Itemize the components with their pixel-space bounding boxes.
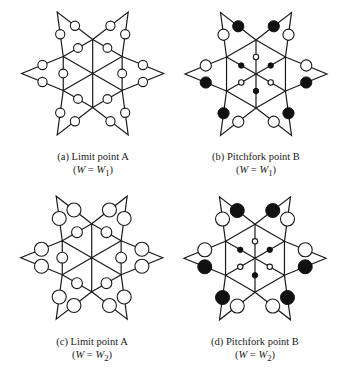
node-circle-open bbox=[34, 242, 48, 256]
node-circle-filled bbox=[280, 291, 294, 305]
caption-a: (a) Limit point A (W = W1) bbox=[3, 150, 183, 180]
inner-node-circle-open bbox=[116, 252, 127, 263]
inner-node-circle-open bbox=[103, 44, 112, 53]
inner-node-circle-filled bbox=[268, 63, 273, 68]
node-circle-filled bbox=[200, 77, 211, 88]
node-circle-open bbox=[200, 60, 211, 71]
inner-node-circle-open bbox=[59, 69, 68, 78]
spoke bbox=[63, 74, 92, 91]
node-circle-open bbox=[38, 77, 47, 86]
node-circle-open bbox=[298, 243, 312, 257]
node-circle-filled bbox=[283, 108, 294, 119]
node-circle-open bbox=[70, 117, 79, 126]
caption-a-label: (a) Limit point A bbox=[57, 151, 128, 162]
node-circle-open bbox=[67, 298, 81, 312]
node-circle-open bbox=[283, 29, 294, 40]
inner-node-circle-filled bbox=[239, 63, 244, 68]
node-circle-filled bbox=[230, 204, 244, 218]
inner-node-circle-open bbox=[101, 278, 112, 289]
inner-node-circle-open bbox=[268, 80, 273, 85]
truss-members-b bbox=[185, 13, 327, 136]
spoke bbox=[93, 57, 122, 74]
node-circle-open bbox=[138, 77, 147, 86]
node-circle-filled bbox=[266, 204, 280, 218]
inner-node-circle-open bbox=[238, 264, 243, 269]
node-circle-open bbox=[135, 259, 149, 273]
node-circle-open bbox=[106, 117, 115, 126]
node-circle-open bbox=[121, 30, 130, 39]
node-circle-open bbox=[280, 212, 294, 226]
caption-d: (d) Pitchfork point B (W = W2) bbox=[165, 335, 345, 365]
node-circle-open bbox=[301, 60, 312, 71]
node-circle-filled bbox=[198, 260, 212, 274]
inner-node-circle-open bbox=[103, 95, 112, 104]
node-circle-open bbox=[106, 21, 115, 30]
truss-members-c bbox=[21, 196, 163, 319]
hex-edge bbox=[226, 224, 255, 241]
hex-edge bbox=[256, 91, 285, 108]
inner-node-circle-filled bbox=[252, 273, 257, 278]
panel-c bbox=[21, 196, 163, 319]
node-circle-filled bbox=[233, 21, 244, 32]
caption-d-condition: (W = W2) bbox=[165, 348, 345, 365]
inner-node-circle-open bbox=[101, 227, 112, 238]
caption-c: (c) Limit point A (W = W2) bbox=[2, 335, 182, 365]
hex-edge bbox=[255, 224, 284, 241]
panel-b bbox=[185, 13, 327, 136]
node-circle-filled bbox=[301, 77, 312, 88]
panel-a bbox=[22, 12, 164, 135]
caption-c-condition: (W = W2) bbox=[2, 348, 182, 365]
node-circle-open bbox=[102, 298, 116, 312]
node-circle-filled bbox=[218, 108, 229, 119]
inner-node-circle-filled bbox=[267, 247, 272, 252]
node-circle-open bbox=[216, 212, 230, 226]
figure: (a) Limit point A (W = W1) (b) Pitchfork… bbox=[0, 0, 346, 384]
inner-node-circle-open bbox=[72, 227, 83, 238]
inner-node-circle-open bbox=[252, 239, 257, 244]
truss-members-a bbox=[22, 12, 164, 135]
caption-a-condition: (W = W1) bbox=[3, 163, 183, 180]
node-circle-filled bbox=[298, 260, 312, 274]
node-circle-open bbox=[135, 242, 149, 256]
node-circle-open bbox=[233, 116, 244, 127]
node-circle-open bbox=[52, 211, 66, 225]
inner-node-circle-open bbox=[74, 95, 83, 104]
inner-node-circle-open bbox=[72, 278, 83, 289]
hex-edge bbox=[227, 91, 256, 108]
inner-node-circle-open bbox=[267, 264, 272, 269]
node-circle-open bbox=[52, 290, 66, 304]
node-circle-open bbox=[56, 30, 65, 39]
panel-d bbox=[184, 197, 326, 320]
node-circle-open bbox=[268, 116, 279, 127]
caption-d-label: (d) Pitchfork point B bbox=[211, 336, 299, 347]
spoke bbox=[63, 57, 92, 74]
caption-b-condition: (W = W1) bbox=[166, 163, 346, 180]
node-circle-open bbox=[117, 290, 131, 304]
star-truss-diagrams bbox=[0, 0, 346, 384]
node-circle-open bbox=[102, 203, 116, 217]
caption-b: (b) Pitchfork point B (W = W1) bbox=[166, 150, 346, 180]
node-circle-open bbox=[67, 203, 81, 217]
truss-members-d bbox=[184, 197, 326, 320]
inner-node-circle-filled bbox=[253, 88, 258, 93]
hex-edge bbox=[227, 40, 256, 57]
inner-node-circle-open bbox=[253, 54, 258, 59]
caption-b-label: (b) Pitchfork point B bbox=[212, 151, 300, 162]
inner-node-circle-filled bbox=[238, 247, 243, 252]
hex-edge bbox=[255, 275, 284, 292]
node-circle-filled bbox=[216, 291, 230, 305]
inner-node-circle-open bbox=[57, 252, 68, 263]
node-circle-open bbox=[198, 243, 212, 257]
node-circle-open bbox=[218, 29, 229, 40]
inner-node-circle-open bbox=[239, 80, 244, 85]
inner-node-circle-open bbox=[118, 69, 127, 78]
node-circle-open bbox=[121, 108, 130, 117]
node-circle-open bbox=[230, 299, 244, 313]
node-circle-filled bbox=[268, 21, 279, 32]
node-circle-open bbox=[38, 60, 47, 69]
node-circle-open bbox=[70, 21, 79, 30]
node-circle-open bbox=[56, 108, 65, 117]
spoke bbox=[93, 74, 122, 91]
node-circle-open bbox=[266, 299, 280, 313]
caption-c-label: (c) Limit point A bbox=[56, 336, 127, 347]
